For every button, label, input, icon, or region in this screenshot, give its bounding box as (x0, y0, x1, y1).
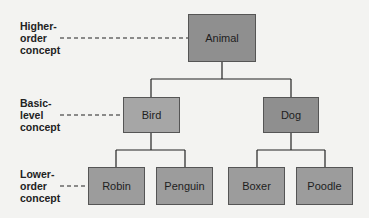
node-label: Robin (102, 180, 131, 192)
node-dog: Dog (263, 97, 319, 133)
node-animal: Animal (188, 14, 256, 62)
node-poodle: Poodle (296, 167, 353, 205)
level-label-lower: Lower- order concept (20, 168, 60, 204)
node-label: Bird (142, 109, 162, 121)
level-label-basic: Basic- level concept (20, 97, 60, 133)
node-label: Penguin (164, 180, 204, 192)
node-boxer: Boxer (228, 167, 285, 205)
node-label: Poodle (307, 180, 341, 192)
level-label-higher: Higher- order concept (20, 20, 60, 56)
node-penguin: Penguin (156, 167, 213, 205)
node-label: Boxer (242, 180, 271, 192)
node-bird: Bird (123, 97, 180, 133)
node-label: Dog (281, 109, 301, 121)
node-robin: Robin (88, 167, 145, 205)
node-label: Animal (205, 32, 239, 44)
